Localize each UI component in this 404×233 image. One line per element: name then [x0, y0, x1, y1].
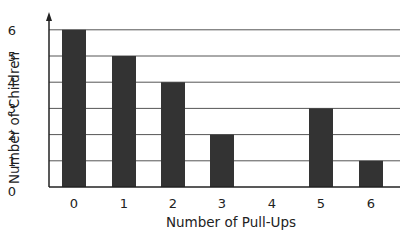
x-tick-label: 1: [120, 196, 128, 211]
bar-5: [309, 108, 333, 187]
bar-2: [161, 82, 185, 187]
x-tick-label: 5: [317, 196, 325, 211]
x-tick-label: 3: [218, 196, 226, 211]
bar-1: [112, 56, 136, 187]
bar-6: [359, 161, 383, 187]
bar-0: [62, 30, 86, 187]
bar-3: [210, 135, 234, 187]
bar-chart: 0123456 0123456 Number of Children Numbe…: [0, 0, 404, 233]
x-tick-label: 4: [268, 196, 276, 211]
x-tick-label: 6: [367, 196, 375, 211]
y-tick-label: 0: [8, 184, 16, 199]
x-tick-label: 2: [169, 196, 177, 211]
y-tick-label: 6: [8, 23, 16, 38]
y-axis-arrow-icon: [46, 12, 52, 21]
x-tick-label: 0: [70, 196, 78, 211]
y-axis-title: Number of Children: [6, 52, 22, 184]
x-tick-labels: 0123456: [70, 196, 375, 211]
x-axis-title: Number of Pull-Ups: [166, 214, 296, 230]
